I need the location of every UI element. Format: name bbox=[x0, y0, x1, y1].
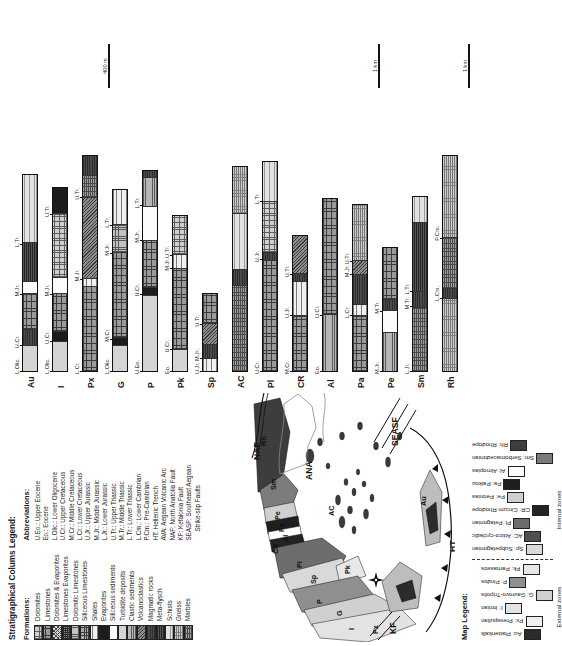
column-name: I bbox=[56, 386, 66, 388]
scale-bar: 400 m bbox=[102, 44, 110, 88]
map-legend-zone[interactable]: Px: Presspulian bbox=[481, 616, 553, 627]
map-legend-zone[interactable]: I: Ionian bbox=[481, 603, 553, 614]
formation-swatch bbox=[43, 625, 52, 640]
map-legend-zone[interactable]: Al: Almopias bbox=[472, 466, 553, 477]
abbreviation-item: M.Jr.: Middle Jurassic bbox=[93, 465, 101, 541]
column-segment bbox=[23, 329, 37, 345]
formation-swatch bbox=[34, 625, 43, 640]
column-segment bbox=[413, 307, 427, 371]
column-segment bbox=[293, 236, 307, 274]
map-legend-zone[interactable]: Rh: Rhodope bbox=[472, 440, 553, 451]
abbreviation-item: NAF: North Anatolia Fault bbox=[169, 465, 177, 541]
column-name: Px bbox=[86, 377, 96, 388]
column-bar bbox=[232, 166, 248, 372]
column-segment bbox=[383, 248, 397, 298]
formation-legend-row: Siliceous sediments bbox=[109, 555, 117, 640]
column-segment bbox=[23, 242, 37, 281]
abbreviation-item: P.Cm.: Pre-Cambrian bbox=[143, 465, 151, 541]
map-legend-zone[interactable]: Pe: Peonias bbox=[472, 492, 553, 503]
map-legend-zone[interactable]: Pk: Parnassos bbox=[481, 564, 553, 575]
stratigraphic-column[interactable]: PeM.Jr.M.Tr. bbox=[382, 4, 412, 388]
column-bar bbox=[412, 196, 428, 372]
formation-swatch bbox=[127, 625, 136, 640]
column-segment bbox=[83, 156, 97, 175]
formation-label: Limestones Evaporites bbox=[62, 556, 70, 621]
formation-label: Evaporites bbox=[100, 591, 108, 621]
column-segment bbox=[53, 331, 67, 340]
column-segment bbox=[353, 274, 367, 304]
svg-text:Pl: Pl bbox=[295, 561, 304, 568]
column-bar bbox=[352, 204, 368, 372]
column-bar bbox=[22, 174, 38, 372]
formation-legend-row: Gneiss bbox=[175, 555, 183, 640]
scale-bar: 1 km bbox=[372, 44, 380, 88]
formation-swatch bbox=[52, 625, 61, 640]
column-tick-label: U.Cr. bbox=[44, 331, 50, 344]
column-segment bbox=[203, 323, 217, 345]
column-segment bbox=[23, 175, 37, 242]
map-legend-zone[interactable]: G: Gavrovo-Tripolis bbox=[481, 590, 553, 601]
column-bar bbox=[142, 170, 158, 372]
map-legend-zone-label: Px: Presspulian bbox=[481, 618, 523, 625]
column-segment bbox=[53, 341, 67, 371]
map-legend-zone[interactable]: AC: Attico-cycladic bbox=[472, 531, 553, 542]
column-segment bbox=[23, 281, 37, 292]
abbreviation-item: SEASF: Southeast Aegean bbox=[185, 465, 193, 541]
stratigraphic-column[interactable]: SpU.Jr.M.Jr.U.Tr. bbox=[202, 4, 232, 388]
column-bar bbox=[292, 235, 308, 372]
geological-map: Rh Sm Pe Pa Al CR Pl AC Sp Pk P G I Px A… bbox=[250, 392, 455, 642]
map-legend-zone-swatch bbox=[526, 544, 543, 555]
map-legend-zone[interactable]: Au: Plattenkalk bbox=[481, 629, 553, 640]
map-legend-zone-swatch bbox=[526, 616, 543, 627]
map-legend-zone-swatch bbox=[503, 479, 520, 490]
map-legend-zone-swatch bbox=[509, 577, 526, 588]
map-legend-zone[interactable]: Pa: Paikou bbox=[472, 479, 553, 490]
svg-text:KF: KF bbox=[388, 623, 398, 634]
column-tick-label: L.Tr. bbox=[404, 283, 410, 294]
formation-label: Dolomites & Evaporites bbox=[53, 555, 61, 621]
map-legend-zone-swatch bbox=[505, 603, 522, 614]
map-legend-zone-label: CR: Circum Rhodope bbox=[472, 507, 530, 514]
column-segment bbox=[383, 332, 397, 371]
abbreviation-item: U.Eo.: Upper Eocene bbox=[34, 465, 42, 541]
column-segment bbox=[143, 240, 157, 287]
stratigraphic-column[interactable]: CRM.Cr.U.Jr.U.Tr. bbox=[292, 4, 322, 388]
formation-label: Marbles bbox=[184, 598, 192, 621]
stratigraphic-column[interactable]: SmL.Jr.M.Tr.L.Tr. bbox=[412, 4, 442, 388]
map-legend-zone-label: Pe: Peonias bbox=[472, 494, 505, 501]
map-legend-zone[interactable]: Sm: Serbomacedonian bbox=[472, 453, 553, 464]
formation-label: Magmatic rocks bbox=[147, 576, 155, 621]
map-legend-zone-label: Sm: Serbomacedonian bbox=[472, 455, 534, 462]
abbreviation-item: L.Cr.: Lower Cretaceous bbox=[76, 465, 84, 541]
column-segment bbox=[413, 291, 427, 307]
svg-text:Au: Au bbox=[419, 496, 428, 506]
column-tick-label: L.Tr. bbox=[14, 236, 20, 247]
stratigraphic-column[interactable]: AlEo.U.Cr. bbox=[322, 4, 352, 388]
abbreviation-item: AVA: Aegean Volcanic Arc bbox=[160, 465, 168, 541]
column-segment bbox=[113, 190, 127, 224]
column-tick-label: U.Tr. bbox=[74, 188, 80, 200]
stratigraphic-column[interactable]: PU.Eo.U.Cr.M.Jr.L.Tr. bbox=[142, 4, 172, 388]
column-segment bbox=[413, 222, 427, 291]
column-segment bbox=[203, 358, 217, 371]
column-tick-label: L.Tr. bbox=[254, 193, 260, 204]
abbreviation-item: L.Jr.: Lower Jurassic bbox=[101, 465, 109, 541]
column-name: Pk bbox=[176, 377, 186, 388]
stratigraphic-column[interactable]: PkEo.U.Cr.M.Jr.U.Tr. bbox=[172, 4, 202, 388]
map-legend-zone[interactable]: Sp: Subpelagonian bbox=[472, 544, 553, 555]
column-segment bbox=[53, 213, 67, 277]
map-legend-zone[interactable]: Pl: Pelagonian bbox=[472, 518, 553, 529]
map-svg: Rh Sm Pe Pa Al CR Pl AC Sp Pk P G I Px A… bbox=[250, 392, 455, 642]
abbreviation-item: U.Jr.: Upper Jurassic bbox=[84, 465, 92, 541]
map-legend-zone[interactable]: P: Pindos bbox=[481, 577, 553, 588]
abbreviations-header: Abbreviations: bbox=[22, 465, 31, 541]
external-zones-group: Au: PlattenkalkPx: PresspulianI: IonianG… bbox=[481, 564, 553, 640]
map-legend-zone-swatch bbox=[513, 518, 530, 529]
column-name: Sp bbox=[206, 377, 216, 388]
column-tick-label: M.Jr. bbox=[134, 231, 140, 243]
map-legend-zone[interactable]: CR: Circum Rhodope bbox=[472, 505, 553, 516]
formation-swatch bbox=[156, 625, 165, 640]
stratigraphic-column[interactable]: GL.Olic.M.Cr.M.Jr.L.Tr. bbox=[112, 4, 142, 388]
stratigraphic-column[interactable]: PlU.Cr.U.Jr.L.Tr. bbox=[262, 4, 292, 388]
column-segment bbox=[143, 177, 157, 205]
